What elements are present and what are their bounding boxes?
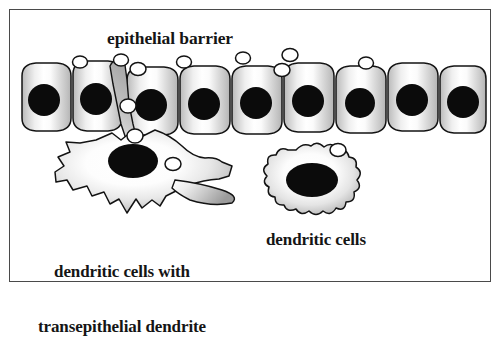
bacterium	[73, 56, 88, 68]
bacterium	[359, 57, 374, 69]
bacterium	[236, 52, 251, 64]
label-epithelial-barrier: epithelial barrier	[0, 29, 340, 48]
epithelial-cell-nucleus	[188, 88, 220, 120]
epithelial-cell	[336, 66, 386, 133]
bacterium	[120, 99, 136, 113]
bacterium	[282, 49, 298, 62]
bacterium	[177, 56, 192, 68]
epithelial-cell	[180, 66, 230, 134]
epithelial-cell-nucleus	[240, 87, 272, 119]
label-line-2: transepithelial dendrite	[14, 318, 230, 336]
epithelial-cell	[22, 63, 71, 131]
bacterium	[127, 129, 143, 143]
epithelial-cell	[388, 63, 438, 131]
epithelial-cell-nucleus	[396, 84, 428, 116]
epithelial-cell-nucleus	[28, 84, 60, 116]
bacterium	[165, 158, 181, 171]
epithelial-cell-nucleus	[135, 89, 167, 121]
epithelial-cell-nucleus	[345, 88, 375, 118]
dendritic-cell-left-nucleus	[108, 144, 158, 178]
label-line-1: dendritic cells with	[14, 263, 230, 281]
label-dendritic-cells: dendritic cells	[236, 231, 396, 249]
bacterium	[274, 64, 290, 77]
epithelial-cell-row	[22, 61, 486, 135]
dendritic-cell-right-nucleus	[286, 163, 338, 197]
epithelial-cell-nucleus	[447, 86, 479, 118]
epithelial-cell-nucleus	[292, 85, 324, 117]
dendritic-cell-right	[264, 143, 361, 214]
dendritic-cell-left	[55, 130, 234, 213]
bacterium	[114, 54, 129, 66]
label-dendritic-cells-with-transepithelial-dendrite: dendritic cells with transepithelial den…	[14, 226, 230, 340]
epithelial-cell	[232, 66, 282, 134]
epithelial-cell	[284, 63, 334, 132]
epithelial-cell	[440, 66, 486, 133]
epithelial-cell-nucleus	[80, 83, 112, 115]
bacterium	[330, 144, 346, 157]
bacterium	[130, 63, 146, 76]
